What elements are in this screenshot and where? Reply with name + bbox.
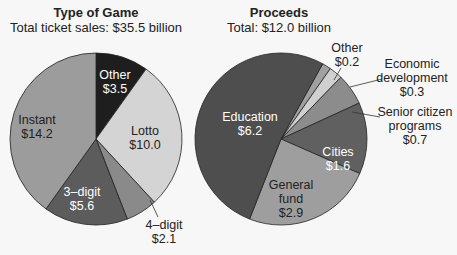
label-value: $6.2	[220, 124, 280, 138]
label-name: Lotto	[125, 124, 165, 138]
label-value: $10.0	[125, 138, 165, 152]
label-value: $3.5	[97, 82, 133, 96]
label-value: $0.2	[331, 55, 363, 69]
label-other: Other $3.5	[97, 68, 133, 96]
label-name: Cities	[320, 145, 356, 159]
label-4-digit: 4–digit $2.1	[142, 218, 186, 246]
label-name: Other	[97, 68, 133, 82]
label-line2: programs	[374, 119, 456, 133]
label-economic-development: Economic development $0.3	[372, 57, 452, 99]
label-name: Other	[331, 41, 363, 55]
label-value: $1.6	[320, 159, 356, 173]
label-name: Instant	[17, 113, 57, 127]
label-cities: Cities $1.6	[320, 145, 356, 173]
label-line1: General	[268, 178, 314, 192]
label-name: 3–digit	[62, 185, 102, 199]
label-general-fund: General fund $2.9	[268, 178, 314, 220]
label-line2: fund	[268, 192, 314, 206]
label-line1: Senior citizen	[374, 105, 456, 119]
label-line1: Economic	[372, 57, 452, 71]
label-3-digit: 3–digit $5.6	[62, 185, 102, 213]
label-education: Education $6.2	[220, 110, 280, 138]
label-value: $2.1	[142, 232, 186, 246]
label-name: 4–digit	[142, 218, 186, 232]
label-value: $0.7	[374, 133, 456, 147]
label-value: $2.9	[268, 206, 314, 220]
label-name: Education	[220, 110, 280, 124]
label-line2: development	[372, 71, 452, 85]
label-value: $0.3	[372, 85, 452, 99]
label-instant: Instant $14.2	[17, 113, 57, 141]
label-senior-citizen-programs: Senior citizen programs $0.7	[374, 105, 456, 147]
label-value: $14.2	[17, 127, 57, 141]
label-lotto: Lotto $10.0	[125, 124, 165, 152]
label-value: $5.6	[62, 199, 102, 213]
label-proceeds-other: Other $0.2	[331, 41, 363, 69]
